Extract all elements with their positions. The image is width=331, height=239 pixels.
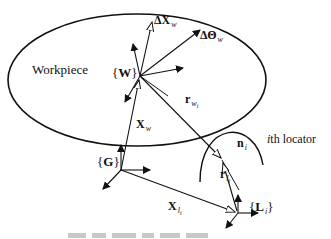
- delta-theta-label: ΔΘw: [200, 29, 223, 44]
- x-w-label: Xw: [136, 118, 151, 133]
- global-frame-label: {G}: [97, 155, 120, 168]
- diagram-graphics: [0, 0, 331, 239]
- locator-label: ith locator: [267, 133, 316, 145]
- delta-x-label: ΔXw: [154, 14, 177, 29]
- normal-label: ni: [237, 137, 247, 152]
- locator-frame-label: {Li}: [249, 200, 273, 216]
- caption-faded: [68, 233, 208, 238]
- workpiece-frame-label: {W}: [112, 66, 138, 79]
- diagram-canvas: Workpiece {W} {G} {Li} ΔXw ΔΘw Xw rwi ni…: [0, 0, 331, 239]
- workpiece-label: Workpiece: [32, 63, 88, 76]
- workpiece-frame-spoke: [140, 76, 168, 96]
- r-li-label: rli: [220, 168, 230, 184]
- r-wi-label: rwi: [185, 93, 198, 109]
- locator-outline: [200, 132, 263, 182]
- x-li-label: Xli: [168, 200, 182, 216]
